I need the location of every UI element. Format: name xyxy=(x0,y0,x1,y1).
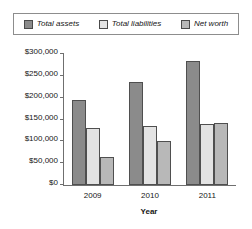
bar xyxy=(129,82,143,185)
bar-group-bars xyxy=(72,54,114,185)
bar xyxy=(200,124,214,185)
legend-swatch-total-liabilities xyxy=(99,20,108,29)
legend-item-total-assets: Total assets xyxy=(24,20,79,29)
x-tick-label: 2009 xyxy=(84,192,102,200)
bar-chart: Total assets Total liabilities Net worth… xyxy=(0,0,252,229)
bar xyxy=(86,128,100,185)
y-tick-label: $250,000 xyxy=(25,70,58,78)
legend-item-total-liabilities: Total liabilities xyxy=(99,20,162,29)
legend-item-net-worth: Net worth xyxy=(181,20,228,29)
legend-label-total-assets: Total assets xyxy=(37,20,79,28)
legend-label-net-worth: Net worth xyxy=(194,20,228,28)
chart-legend: Total assets Total liabilities Net worth xyxy=(13,13,239,35)
y-tick-label: $300,000 xyxy=(25,48,58,56)
bar xyxy=(214,123,228,185)
x-tick-label: 2010 xyxy=(141,192,159,200)
y-tick-label: $0 xyxy=(49,179,58,187)
x-axis-title: Year xyxy=(63,208,235,216)
bar-group-2009: 2009 xyxy=(72,54,114,185)
legend-swatch-net-worth xyxy=(181,20,190,29)
bar-group-bars xyxy=(186,54,228,185)
bar-group-2011: 2011 xyxy=(186,54,228,185)
plot-area: $0$50,000$100,000$150,000$200,000$250,00… xyxy=(63,54,236,186)
bar-group-2010: 2010 xyxy=(129,54,171,185)
y-tick-label: $150,000 xyxy=(25,114,58,122)
bar xyxy=(72,100,86,185)
y-tick-label: $50,000 xyxy=(29,157,58,165)
bar-group-bars xyxy=(129,54,171,185)
y-tick-label: $100,000 xyxy=(25,135,58,143)
y-tick-label: $200,000 xyxy=(25,92,58,100)
legend-swatch-total-assets xyxy=(24,20,33,29)
legend-label-total-liabilities: Total liabilities xyxy=(112,20,162,28)
x-tick-label: 2011 xyxy=(199,192,216,200)
bars-layer: 200920102011 xyxy=(64,54,236,185)
bar xyxy=(157,141,171,185)
bar xyxy=(100,157,114,185)
bar xyxy=(186,61,200,185)
bar xyxy=(143,126,157,185)
